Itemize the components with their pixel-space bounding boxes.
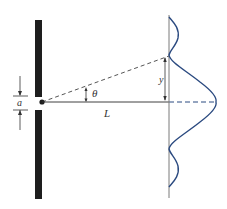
arrow-down-icon bbox=[18, 91, 22, 96]
label-theta: θ bbox=[92, 87, 98, 99]
barrier-upper bbox=[35, 20, 42, 97]
barrier-lower bbox=[35, 110, 42, 199]
ray-dashed bbox=[42, 56, 169, 102]
angle-arrow-up-icon bbox=[85, 87, 88, 91]
angle-arrow-down-icon bbox=[85, 99, 88, 103]
arrow-up-icon bbox=[18, 110, 22, 115]
label-L: L bbox=[103, 107, 110, 119]
diffraction-diagram: a θ L y bbox=[0, 0, 227, 209]
label-y: y bbox=[158, 74, 164, 85]
label-a: a bbox=[17, 97, 22, 108]
y-arrow-down-icon bbox=[163, 96, 166, 101]
